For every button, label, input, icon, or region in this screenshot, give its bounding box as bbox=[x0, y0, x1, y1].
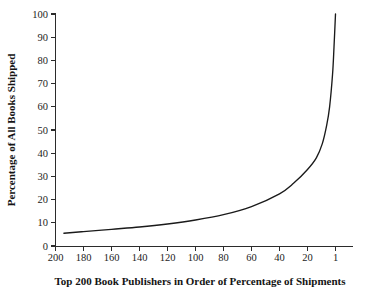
y-axis-tick-marks bbox=[51, 14, 56, 246]
y-axis-tick-label: 50 bbox=[38, 125, 49, 136]
x-axis-title: Top 200 Book Publishers in Order of Perc… bbox=[54, 275, 346, 287]
x-axis-tick-label: 100 bbox=[188, 252, 204, 263]
x-axis-tick-label: 80 bbox=[218, 252, 229, 263]
y-axis-tick-label: 90 bbox=[38, 32, 49, 43]
y-axis-tick-label: 30 bbox=[38, 171, 49, 182]
x-axis-tick-label: 60 bbox=[246, 252, 257, 263]
data-series-line bbox=[64, 14, 336, 233]
x-axis-tick-label: 40 bbox=[274, 252, 285, 263]
y-axis-tick-label: 60 bbox=[38, 101, 49, 112]
y-axis-tick-label: 0 bbox=[43, 241, 48, 252]
y-axis-tick-label: 20 bbox=[38, 194, 49, 205]
x-axis-tick-label: 200 bbox=[48, 252, 64, 263]
y-axis-tick-labels: 0102030405060708090100 bbox=[32, 9, 48, 252]
chart-figure: 0102030405060708090100 20018016014012010… bbox=[0, 0, 367, 296]
x-axis-tick-label: 1 bbox=[333, 252, 338, 263]
x-axis-tick-label: 120 bbox=[160, 252, 176, 263]
y-axis-tick-label: 10 bbox=[38, 217, 49, 228]
x-axis-tick-labels: 200180160140120100806040201 bbox=[48, 252, 339, 263]
x-axis-tick-label: 20 bbox=[302, 252, 313, 263]
y-axis-tick-label: 100 bbox=[32, 9, 48, 20]
y-axis-tick-label: 70 bbox=[38, 78, 49, 89]
y-axis-tick-label: 80 bbox=[38, 55, 49, 66]
x-axis-tick-label: 140 bbox=[132, 252, 148, 263]
chart-plot-area: 0102030405060708090100 20018016014012010… bbox=[0, 0, 367, 296]
y-axis-title: Percentage of All Books Shipped bbox=[5, 54, 17, 207]
x-axis-tick-label: 180 bbox=[76, 252, 92, 263]
x-axis-tick-marks bbox=[56, 247, 336, 252]
y-axis-tick-label: 40 bbox=[38, 148, 49, 159]
x-axis-tick-label: 160 bbox=[104, 252, 120, 263]
